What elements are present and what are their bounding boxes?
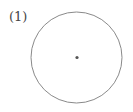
circle-diagram — [0, 0, 133, 112]
center-point — [75, 56, 78, 59]
